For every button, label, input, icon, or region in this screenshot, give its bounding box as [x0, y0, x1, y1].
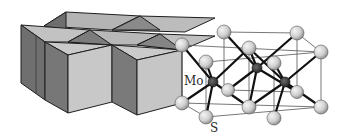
mos2-structure-diagram: Mo S: [0, 0, 350, 140]
s-atom: [222, 84, 235, 97]
prism-1-light-face: [68, 45, 112, 113]
s-label: S: [210, 121, 218, 135]
s-atom: [175, 38, 189, 52]
s-atom: [291, 86, 304, 99]
mo-label: Mo: [184, 74, 204, 88]
s-atom: [314, 100, 328, 114]
s-atom: [290, 26, 304, 40]
s-atom: [217, 25, 231, 39]
s-atom: [267, 56, 281, 70]
s-atom: [175, 96, 189, 110]
prism-1-dark-face: [45, 42, 68, 113]
mo-atom: [252, 63, 262, 73]
s-atom: [314, 45, 328, 59]
s-atom: [267, 111, 281, 125]
s-atom: [242, 100, 256, 114]
mo-atom: [208, 77, 218, 87]
mo-atom: [280, 77, 290, 87]
s-atom: [242, 41, 256, 55]
s-atom: [199, 55, 213, 69]
